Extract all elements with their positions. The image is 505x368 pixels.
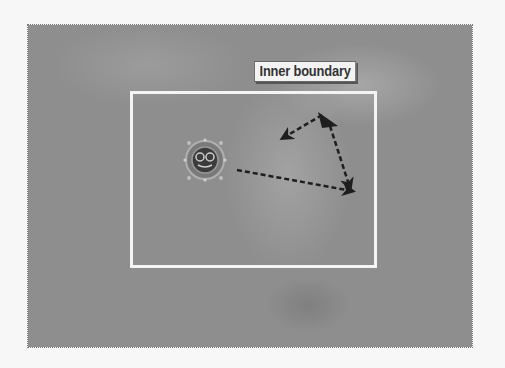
arrow-to-lower-right [237,170,352,191]
porthole-character-icon [183,138,226,181]
diagram-overlay [0,0,505,368]
arrow-to-upper-left [283,115,322,138]
path-arrows [237,112,352,191]
arrow-down-right [330,126,350,188]
